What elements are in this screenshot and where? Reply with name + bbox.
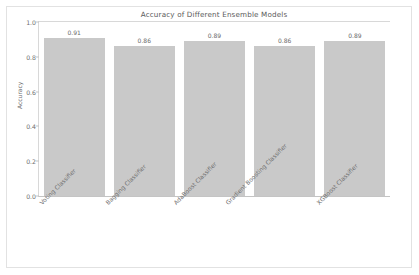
bar-value-label: 0.86: [254, 37, 315, 44]
chart-title: Accuracy of Different Ensemble Models: [38, 10, 390, 19]
plot-area: 1.00.80.60.40.20.0 0.910.860.890.860.89: [38, 21, 390, 197]
bar-value-label: 0.89: [324, 32, 385, 39]
bar: [114, 46, 175, 196]
y-axis-tick-label: 0.8: [26, 53, 36, 60]
bar-value-label: 0.89: [184, 32, 245, 39]
y-axis-tick-label: 0.2: [26, 158, 36, 165]
bar: [324, 41, 385, 196]
bar-series: 0.910.860.890.860.89: [39, 22, 390, 196]
bar-value-label: 0.86: [114, 37, 175, 44]
y-axis-tick-label: 0.4: [26, 123, 36, 130]
chart-figure: Accuracy of Different Ensemble Models Ac…: [0, 0, 419, 275]
bar-value-label: 0.91: [44, 29, 105, 36]
bar-slot: 0.89: [184, 22, 245, 196]
y-axis-tick-label: 0.6: [26, 88, 36, 95]
y-axis-tick-label: 0.0: [26, 193, 36, 200]
bar: [254, 46, 315, 196]
y-axis-tick-label: 1.0: [26, 19, 36, 26]
bar: [184, 41, 245, 196]
y-axis-label: Accuracy: [16, 82, 23, 109]
